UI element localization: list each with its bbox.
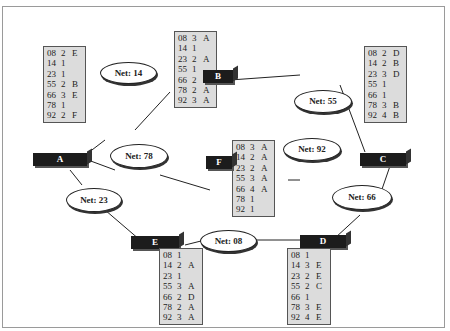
table-row: 923A (163, 312, 199, 322)
table-row: 141 (178, 43, 213, 53)
dest-net: 08 (47, 48, 61, 58)
dest-net: 14 (178, 43, 192, 53)
table-row: 663E (47, 90, 82, 100)
dest-net: 78 (236, 194, 250, 204)
dest-net: 55 (236, 173, 250, 183)
next-hop: E (72, 48, 82, 58)
dest-net: 55 (47, 79, 61, 89)
dest-net: 23 (236, 163, 250, 173)
dest-net: 08 (368, 48, 382, 58)
next-hop (393, 90, 403, 100)
routing-table-e: 081 142A 231 553A 662D 782A 923A (159, 248, 203, 325)
dest-net: 23 (163, 271, 177, 281)
table-row: 781 (47, 100, 82, 110)
routing-table-d: 081 143E 232E 552C 661 783E 924E (287, 248, 331, 325)
table-row: 924E (291, 312, 327, 322)
table-row: 231 (47, 69, 82, 79)
next-hop (261, 194, 271, 204)
next-hop: A (261, 152, 271, 162)
dest-net: 14 (163, 260, 177, 270)
table-row: 782A (178, 85, 213, 95)
network-cloud-55: Net: 55 (294, 90, 352, 113)
next-hop: A (261, 173, 271, 183)
table-row: 232A (178, 54, 213, 64)
table-row: 231 (163, 271, 199, 281)
table-row: 923A (178, 95, 213, 105)
next-hop (72, 58, 82, 68)
next-hop: D (393, 69, 403, 79)
table-row: 141 (47, 58, 82, 68)
next-hop: A (261, 142, 271, 152)
dest-net: 78 (163, 302, 177, 312)
table-row: 081 (291, 250, 327, 260)
dest-net: 78 (178, 85, 192, 95)
table-row: 232E (291, 271, 327, 281)
next-hop: B (393, 58, 403, 68)
table-row: 783E (291, 302, 327, 312)
hops: 2 (192, 54, 203, 64)
dest-net: 55 (368, 79, 382, 89)
dest-net: 66 (291, 292, 305, 302)
table-row: 553A (163, 281, 199, 291)
next-hop (261, 204, 271, 214)
next-hop: B (393, 110, 403, 120)
table-row: 142B (368, 58, 403, 68)
router-f: F (206, 156, 232, 169)
hops: 4 (382, 110, 393, 120)
next-hop: A (188, 260, 198, 270)
table-row: 924B (368, 110, 403, 120)
next-hop: A (188, 312, 198, 322)
dest-net: 92 (178, 95, 192, 105)
next-hop: C (316, 281, 326, 291)
dest-net: 78 (368, 100, 382, 110)
network-cloud-92: Net: 92 (283, 138, 341, 161)
hops: 1 (61, 100, 72, 110)
table-row: 081 (163, 250, 199, 260)
dest-net: 66 (178, 75, 192, 85)
next-hop (316, 292, 326, 302)
next-hop: A (261, 163, 271, 173)
next-hop: A (203, 85, 213, 95)
table-row: 082D (368, 48, 403, 58)
hops: 1 (192, 64, 203, 74)
hops: 2 (250, 152, 261, 162)
hops: 2 (61, 110, 72, 120)
table-row: 082E (47, 48, 82, 58)
hops: 1 (177, 250, 188, 260)
table-row: 664A (236, 184, 271, 194)
dest-net: 55 (291, 281, 305, 291)
hops: 3 (382, 100, 393, 110)
hops: 2 (192, 85, 203, 95)
dest-net: 78 (291, 302, 305, 312)
dest-net: 92 (368, 110, 382, 120)
dest-net: 23 (47, 69, 61, 79)
dest-net: 66 (368, 90, 382, 100)
table-row: 552B (47, 79, 82, 89)
next-hop: B (72, 79, 82, 89)
hops: 3 (250, 173, 261, 183)
next-hop (188, 271, 198, 281)
next-hop: E (72, 90, 82, 100)
hops: 1 (61, 69, 72, 79)
next-hop: A (203, 33, 213, 43)
table-row: 083A (236, 142, 271, 152)
dest-net: 66 (47, 90, 61, 100)
hops: 2 (250, 163, 261, 173)
network-cloud-14: Net: 14 (100, 62, 157, 84)
table-row: 661 (368, 90, 403, 100)
next-hop (316, 250, 326, 260)
dest-net: 08 (291, 250, 305, 260)
hops: 3 (305, 260, 316, 270)
network-cloud-78: Net: 78 (110, 144, 168, 168)
table-row: 143E (291, 260, 327, 270)
table-row: 552C (291, 281, 327, 291)
table-row: 142A (163, 260, 199, 270)
dest-net: 55 (178, 64, 192, 74)
dest-net: 66 (236, 184, 250, 194)
table-row: 783B (368, 100, 403, 110)
hops: 3 (250, 142, 261, 152)
next-hop: D (188, 292, 198, 302)
table-row: 921 (236, 204, 271, 214)
hops: 4 (250, 184, 261, 194)
hops: 3 (177, 281, 188, 291)
